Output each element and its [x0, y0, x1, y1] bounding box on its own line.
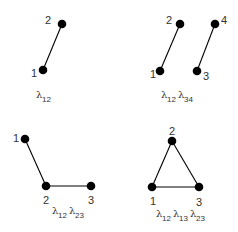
diagram-1: 12λ12	[31, 14, 66, 104]
svg-text:13: 13	[179, 214, 188, 223]
edge-1-2	[152, 141, 172, 187]
svg-text:23: 23	[196, 214, 205, 223]
node-4	[211, 20, 220, 29]
node-label-3: 3	[196, 196, 202, 208]
edge-1-2	[160, 24, 180, 71]
node-label-3: 3	[88, 194, 94, 206]
svg-text:23: 23	[75, 211, 84, 220]
node-label-3: 3	[203, 70, 209, 82]
node-label-2: 2	[169, 125, 175, 137]
svg-text:34: 34	[184, 95, 193, 104]
node-3	[195, 183, 204, 192]
lambda-label: λ12λ13λ23	[156, 208, 205, 223]
svg-text:12: 12	[58, 211, 67, 220]
node-3	[193, 67, 202, 76]
node-label-4: 4	[221, 14, 227, 26]
node-1	[148, 183, 157, 192]
node-2	[58, 20, 67, 29]
diagram-4: 123λ12λ13λ23	[148, 125, 206, 223]
node-3	[87, 182, 96, 191]
node-label-1: 1	[31, 67, 37, 79]
node-label-1: 1	[150, 68, 156, 80]
lambda-label: λ12	[36, 89, 51, 104]
node-label-2: 2	[166, 14, 172, 26]
edge-2-3	[172, 141, 199, 187]
node-label-1: 1	[150, 195, 156, 207]
node-label-2: 2	[45, 14, 51, 26]
diagram-3: 123λ12λ23	[13, 132, 95, 220]
node-label-1: 1	[13, 132, 19, 144]
lambda-label: λ12λ34	[161, 89, 193, 104]
svg-text:12: 12	[167, 95, 176, 104]
graph-diagrams: 12λ121234λ12λ34123λ12λ23123λ12λ13λ23	[0, 0, 238, 232]
node-label-2: 2	[43, 194, 49, 206]
edge-1-2	[25, 139, 46, 186]
node-2	[42, 182, 51, 191]
svg-text:12: 12	[42, 95, 51, 104]
node-2	[168, 137, 177, 146]
edge-3-4	[197, 24, 215, 71]
svg-text:12: 12	[162, 214, 171, 223]
diagram-2: 1234λ12λ34	[150, 14, 227, 104]
edge-1-2	[43, 24, 62, 70]
node-1	[21, 135, 30, 144]
node-1	[156, 67, 165, 76]
lambda-label: λ12λ23	[52, 205, 84, 220]
node-1	[39, 66, 48, 75]
node-2	[176, 20, 185, 29]
